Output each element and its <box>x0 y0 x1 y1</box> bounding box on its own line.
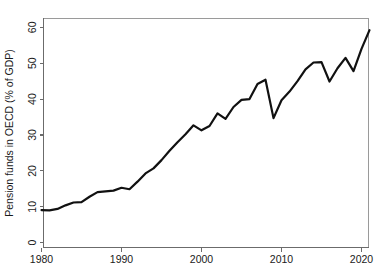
x-tick-label: 1980 <box>30 253 54 265</box>
x-tick-label: 1990 <box>110 253 134 265</box>
y-tick-label: 10 <box>26 201 38 213</box>
x-tick-label: 2020 <box>350 253 374 265</box>
x-tick-label: 2000 <box>190 253 214 265</box>
x-tick-group: 19801990200020102020 <box>30 248 374 266</box>
y-axis-title: Pension funds in OECD (% of GDP) <box>3 49 15 216</box>
chart-figure: 0102030405060 19801990200020102020 Pensi… <box>0 0 384 276</box>
y-tick-label: 20 <box>26 165 38 177</box>
y-tick-label: 60 <box>26 21 38 33</box>
y-tick-group: 0102030405060 <box>26 21 43 245</box>
y-tick-label: 40 <box>26 93 38 105</box>
x-tick-label: 2010 <box>270 253 294 265</box>
y-tick-label: 50 <box>26 57 38 69</box>
y-tick-label: 0 <box>26 240 38 246</box>
line-chart: 0102030405060 19801990200020102020 Pensi… <box>0 0 384 276</box>
plot-frame <box>44 19 369 248</box>
series-line-pension-funds <box>42 30 370 210</box>
y-tick-label: 30 <box>26 129 38 141</box>
